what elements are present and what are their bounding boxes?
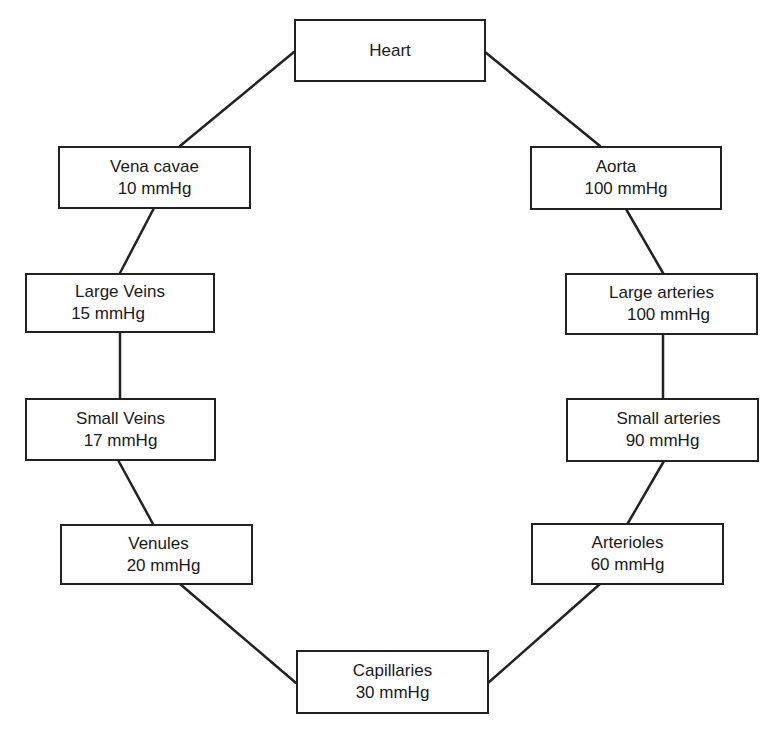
node-venules-label: Venules [128, 533, 189, 555]
edge-aorta-large-arteries [626, 209, 663, 273]
edge-venules-capillaries [180, 584, 296, 683]
node-large-arteries: Large arteries 100 mmHg [565, 273, 758, 335]
node-capillaries: Capillaries 30 mmHg [296, 650, 489, 714]
edge-heart-vena-cavae [180, 52, 294, 146]
node-venules-pressure: 20 mmHg [127, 555, 201, 577]
node-large-veins: Large Veins 15 mmHg [25, 273, 215, 333]
node-large-arteries-pressure: 100 mmHg [627, 304, 710, 326]
edge-small-veins-venules [118, 460, 153, 524]
node-venules: Venules 20 mmHg [60, 524, 253, 585]
connector-lines [0, 0, 767, 730]
node-arterioles: Arterioles 60 mmHg [531, 523, 724, 585]
node-small-veins: Small Veins 17 mmHg [25, 398, 216, 461]
node-small-arteries: Small arteries 90 mmHg [566, 398, 759, 462]
node-vena-cavae-pressure: 10 mmHg [118, 178, 192, 200]
node-small-veins-label: Small Veins [76, 408, 165, 430]
node-aorta-pressure: 100 mmHg [584, 178, 667, 200]
node-aorta: Aorta 100 mmHg [530, 146, 722, 210]
node-capillaries-pressure: 30 mmHg [356, 682, 430, 704]
node-large-veins-pressure: 15 mmHg [71, 303, 145, 325]
node-vena-cavae: Vena cavae 10 mmHg [58, 146, 251, 209]
node-small-veins-pressure: 17 mmHg [84, 430, 158, 452]
node-large-veins-label: Large Veins [75, 281, 165, 303]
edge-small-arteries-arterioles [628, 461, 664, 523]
node-small-arteries-label: Small arteries [617, 408, 721, 430]
node-heart-label: Heart [369, 40, 411, 62]
node-heart: Heart [294, 19, 486, 82]
edge-heart-aorta [485, 52, 600, 146]
edge-vena-cavae-large-veins [120, 208, 154, 273]
node-small-arteries-pressure: 90 mmHg [626, 430, 700, 452]
node-aorta-label: Aorta [596, 156, 637, 178]
node-capillaries-label: Capillaries [353, 660, 432, 682]
node-arterioles-pressure: 60 mmHg [591, 554, 665, 576]
node-large-arteries-label: Large arteries [609, 282, 714, 304]
edge-arterioles-capillaries [488, 584, 600, 683]
node-arterioles-label: Arterioles [592, 532, 664, 554]
node-vena-cavae-label: Vena cavae [110, 156, 199, 178]
